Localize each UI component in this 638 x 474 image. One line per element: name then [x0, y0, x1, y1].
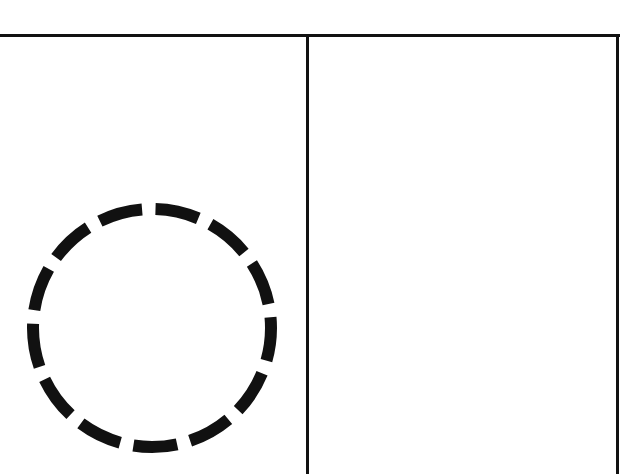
frame-right-border — [616, 34, 619, 474]
right-panel — [309, 37, 616, 474]
left-panel — [0, 37, 306, 474]
